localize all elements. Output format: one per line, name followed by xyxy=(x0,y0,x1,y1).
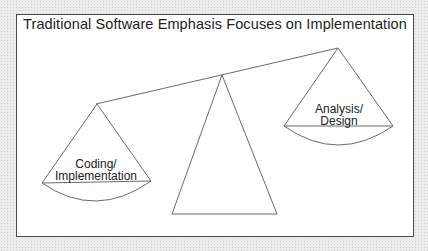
scale-fulcrum xyxy=(172,75,277,214)
right-pan xyxy=(284,48,393,145)
left-pan xyxy=(42,104,151,201)
left-pan-label-line2: Implementation xyxy=(46,170,146,182)
left-pan-label: Coding/ Implementation xyxy=(46,158,146,182)
right-pan-label-line2: Design xyxy=(289,115,389,127)
right-pan-label: Analysis/ Design xyxy=(289,103,389,127)
scale-beam xyxy=(96,48,338,104)
